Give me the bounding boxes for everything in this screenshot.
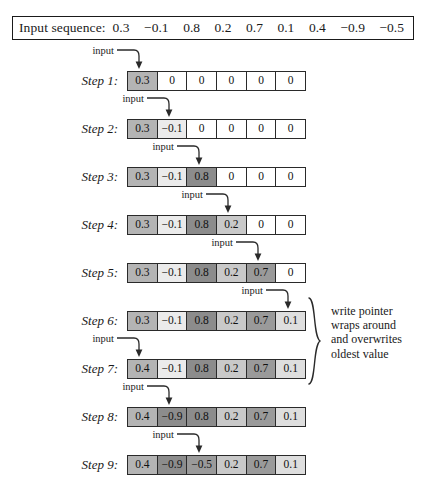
buffer-cell: 0.2 [217,408,247,426]
input-arrow-icon [146,382,176,407]
buffer-cell: 0 [217,120,247,138]
wrap-around-note-line: and overwrites [331,332,426,346]
buffer-cell: −0.1 [158,168,188,186]
buffer-cell: 0.8 [187,216,217,234]
buffer-cell: 0.3 [128,216,158,234]
input-pointer-label: input [181,189,203,200]
buffer-cell: 0.8 [187,264,217,282]
input-pointer-annotation: input [0,429,206,455]
buffer-cell: 0.2 [217,456,247,474]
input-arrow-icon [176,430,206,455]
buffer-cell: 0 [276,168,305,186]
input-pointer-annotation: input [0,93,176,119]
input-pointer-annotation: input [0,189,235,215]
buffer-cell: 0 [217,168,247,186]
buffer-cell: −0.9 [158,456,188,474]
buffer-cell: 0 [158,72,188,90]
input-pointer-label: input [152,429,174,440]
step-row: Step 8:0.4−0.90.80.20.70.1input [0,407,426,427]
input-pointer-annotation: input [0,141,206,167]
step-label: Step 9: [0,455,118,475]
circular-buffer: 0.3−0.10.80.20.70.1 [127,311,306,331]
buffer-cell: 0.3 [128,312,158,330]
wrap-around-note-line: oldest value [331,347,426,361]
buffer-cell: 0.8 [187,360,217,378]
input-pointer-annotation: input [0,333,146,359]
step-label: Step 4: [0,215,118,235]
buffer-cell: −0.1 [158,312,188,330]
buffer-cell: 0.7 [247,408,277,426]
input-pointer-annotation: input [0,45,146,71]
input-arrow-icon [116,46,146,71]
buffer-cell: 0.1 [276,312,305,330]
input-pointer-annotation: input [0,237,265,263]
step-label: Step 7: [0,359,118,379]
input-pointer-annotation: input [0,285,295,311]
input-pointer-label: input [92,45,114,56]
input-arrow-icon [176,142,206,167]
circular-buffer: 0.3−0.10.8000 [127,167,306,187]
steps-container: Step 1:0.300000inputStep 2:0.3−0.10000in… [0,0,426,489]
step-label: Step 1: [0,71,118,91]
circular-buffer: 0.300000 [127,71,306,91]
input-arrow-icon [146,94,176,119]
step-row: Step 3:0.3−0.10.8000input [0,167,426,187]
buffer-cell: −0.5 [187,456,217,474]
input-arrow-icon [116,334,146,359]
buffer-cell: 0 [247,216,277,234]
buffer-cell: 0 [187,72,217,90]
circular-buffer: 0.3−0.10000 [127,119,306,139]
input-pointer-label: input [122,93,144,104]
input-arrow-icon [265,286,295,311]
buffer-cell: 0.8 [187,168,217,186]
wrap-around-annotation: write pointerwraps aroundand overwriteso… [307,296,426,386]
step-label: Step 2: [0,119,118,139]
buffer-cell: 0.3 [128,72,158,90]
buffer-cell: 0.7 [247,264,277,282]
buffer-cell: 0.3 [128,120,158,138]
buffer-cell: 0.4 [128,408,158,426]
buffer-cell: 0 [247,168,277,186]
input-pointer-label: input [122,381,144,392]
buffer-cell: 0.1 [276,360,305,378]
input-pointer-label: input [211,237,233,248]
buffer-cell: 0.3 [128,264,158,282]
buffer-cell: 0.3 [128,168,158,186]
buffer-cell: 0.2 [217,312,247,330]
input-pointer-label: input [92,333,114,344]
step-label: Step 6: [0,311,118,331]
input-pointer-label: input [241,285,263,296]
buffer-cell: 0 [276,120,305,138]
step-row: Step 4:0.3−0.10.80.200input [0,215,426,235]
step-row: Step 1:0.300000input [0,71,426,91]
buffer-cell: 0.2 [217,216,247,234]
buffer-cell: 0.1 [276,408,305,426]
buffer-cell: −0.1 [158,216,188,234]
buffer-cell: −0.1 [158,360,188,378]
wrap-around-note-line: write pointer [331,304,426,318]
buffer-cell: 0 [187,120,217,138]
buffer-cell: −0.1 [158,264,188,282]
curly-brace-icon [307,296,327,386]
buffer-cell: 0.2 [217,360,247,378]
buffer-cell: 0 [276,72,305,90]
wrap-around-note: write pointerwraps aroundand overwriteso… [331,304,426,361]
step-row: Step 2:0.3−0.10000input [0,119,426,139]
buffer-cell: 0 [276,216,305,234]
input-pointer-label: input [152,141,174,152]
buffer-cell: 0.8 [187,408,217,426]
wrap-around-note-line: wraps around [331,318,426,332]
buffer-cell: 0.1 [276,456,305,474]
buffer-cell: 0 [217,72,247,90]
buffer-cell: 0 [276,264,305,282]
buffer-cell: 0 [247,120,277,138]
circular-buffer: 0.4−0.10.80.20.70.1 [127,359,306,379]
buffer-cell: 0 [247,72,277,90]
circular-buffer: 0.4−0.90.80.20.70.1 [127,407,306,427]
circular-buffer: 0.3−0.10.80.200 [127,215,306,235]
step-label: Step 3: [0,167,118,187]
circular-buffer: 0.4−0.9−0.50.20.70.1 [127,455,306,475]
buffer-cell: 0.2 [217,264,247,282]
input-arrow-icon [235,238,265,263]
buffer-cell: 0.7 [247,312,277,330]
